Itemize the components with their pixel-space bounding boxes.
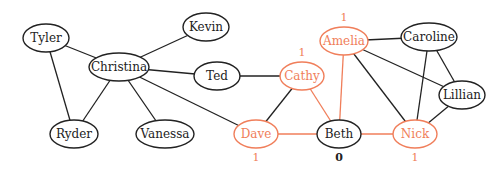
node-label: Beth [325,127,354,141]
node-ryder: Ryder [50,120,98,148]
node-nick: Nick1 [393,120,437,164]
node-beth: Beth0 [317,120,361,164]
node-kevin: Kevin [183,13,229,41]
node-tyler: Tyler [23,24,69,52]
node-christina: Christina [89,53,149,81]
graph-diagram: TylerKevinChristinaTedRyderVanessaAmelia… [0,0,502,173]
node-amelia: Amelia1 [320,11,368,55]
node-label: Cathy [284,69,320,83]
node-label: Ted [206,69,228,83]
node-lillian: Lillian [439,81,485,109]
node-label: Kevin [189,20,223,34]
node-caroline: Caroline [401,23,457,51]
edge-amelia-nick [344,41,415,134]
node-label: Caroline [403,30,455,44]
node-count: 1 [299,46,306,59]
node-label: Vanessa [139,127,189,141]
node-cathy: Cathy1 [280,46,324,90]
node-label: Ryder [56,127,92,141]
node-ted: Ted [194,62,240,90]
node-count: 0 [335,151,343,164]
node-label: Nick [401,127,430,141]
node-vanessa: Vanessa [136,120,194,148]
node-count: 1 [412,151,419,164]
node-label: Christina [91,60,147,74]
node-label: Amelia [322,34,365,48]
node-label: Dave [241,127,272,141]
node-count: 1 [341,11,348,24]
nodes: TylerKevinChristinaTedRyderVanessaAmelia… [23,11,485,164]
node-dave: Dave1 [234,120,278,164]
node-count: 1 [253,151,260,164]
node-label: Tyler [30,31,62,45]
node-label: Lillian [443,88,481,102]
